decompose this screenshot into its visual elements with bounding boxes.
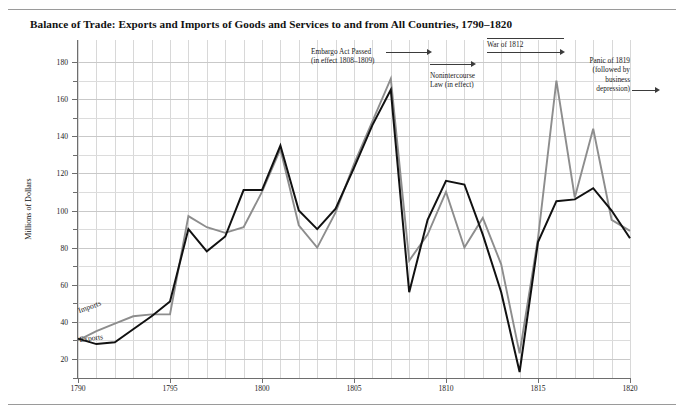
- x-axis-tick: [538, 378, 539, 383]
- annotation-embargo-act: Embargo Act Passed (in effect 1808–1809): [311, 47, 375, 66]
- war-annotation-underline: [487, 38, 564, 39]
- annotation-embargo-line1: Embargo Act Passed: [311, 47, 375, 56]
- annotation-panic-line2: (followed by: [556, 65, 630, 74]
- annotation-panic-of-1819: Panic of 1819 (followed by business depr…: [556, 56, 630, 94]
- annotation-panic-line4: depression): [556, 84, 630, 93]
- annotation-war-of-1812: War of 1812: [487, 40, 523, 49]
- panic-arrow-icon: [632, 87, 660, 94]
- x-axis-tick-label: 1815: [530, 384, 545, 393]
- x-axis-tick-label: 1810: [438, 384, 453, 393]
- x-axis-tick: [170, 378, 171, 383]
- x-axis-tick: [262, 378, 263, 383]
- x-axis-tick: [630, 378, 631, 383]
- annotation-nonintercourse-line2: Law (in effect): [430, 80, 492, 89]
- annotation-nonintercourse-law: Nonintercourse Law (in effect): [430, 71, 492, 90]
- x-axis-tick-label: 1805: [346, 384, 361, 393]
- nonintercourse-arrow-icon: [430, 61, 476, 68]
- annotation-panic-line1: Panic of 1819: [556, 56, 630, 65]
- imports-line: [78, 79, 630, 354]
- war-arrow-icon: [487, 49, 565, 56]
- exports-line: [78, 90, 630, 372]
- annotation-embargo-line2: (in effect 1808–1809): [311, 56, 375, 65]
- embargo-arrow-icon: [386, 49, 432, 56]
- x-axis-tick-label: 1790: [70, 384, 85, 393]
- annotation-war-line1: War of 1812: [487, 40, 523, 49]
- x-axis-tick: [446, 378, 447, 383]
- x-axis-tick-label: 1795: [162, 384, 177, 393]
- chart-figure: Balance of Trade: Exports and Imports of…: [0, 0, 684, 413]
- annotation-panic-line3: business: [556, 75, 630, 84]
- annotation-nonintercourse-line1: Nonintercourse: [430, 71, 492, 80]
- x-axis-tick-label: 1800: [254, 384, 269, 393]
- x-axis-tick-label: 1820: [622, 384, 637, 393]
- x-axis-tick: [354, 378, 355, 383]
- x-axis-tick: [78, 378, 79, 383]
